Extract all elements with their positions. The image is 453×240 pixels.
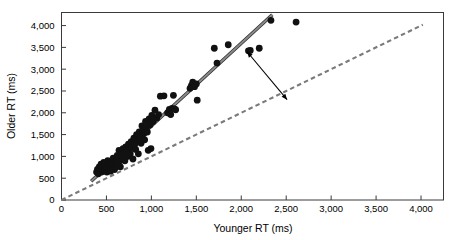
data-point xyxy=(130,156,137,163)
data-point xyxy=(155,111,162,118)
data-point xyxy=(193,81,200,88)
x-tick-label: 500 xyxy=(99,203,115,214)
data-point xyxy=(161,92,168,99)
y-tick-label: 3,000 xyxy=(31,64,55,75)
x-tick-label: 1,000 xyxy=(139,203,163,214)
data-point xyxy=(117,163,124,170)
scatter-plot-canvas: 05001,0001,5002,0002,5003,0003,5004,000 … xyxy=(0,0,453,240)
y-tick-label: 1,000 xyxy=(31,151,55,162)
x-tick-label: 0 xyxy=(59,203,64,214)
x-tick-label: 2,000 xyxy=(229,203,253,214)
y-tick-label: 500 xyxy=(39,173,55,184)
y-tick-label: 2,500 xyxy=(31,85,55,96)
data-point xyxy=(172,106,179,113)
x-tick-label: 3,000 xyxy=(319,203,343,214)
x-tick-label: 1,500 xyxy=(184,203,208,214)
y-tick-label: 2,000 xyxy=(31,107,55,118)
x-axis-tick-labels: 05001,0001,5002,0002,5003,0003,5004,000 xyxy=(59,203,433,214)
data-point xyxy=(141,136,148,143)
data-point xyxy=(170,92,177,99)
data-point xyxy=(214,60,221,67)
brinley-plot-figure: 05001,0001,5002,0002,5003,0003,5004,000 … xyxy=(0,0,453,240)
y-tick-label: 4,000 xyxy=(31,20,55,31)
x-tick-label: 2,500 xyxy=(274,203,298,214)
y-tick-label: 1,500 xyxy=(31,129,55,140)
x-tick-label: 3,500 xyxy=(364,203,388,214)
y-tick-label: 0 xyxy=(49,194,54,205)
data-point xyxy=(194,97,201,104)
data-point xyxy=(268,17,275,24)
x-tick-label: 4,000 xyxy=(409,203,433,214)
data-point xyxy=(225,41,232,48)
data-point xyxy=(211,45,218,52)
data-point xyxy=(144,129,151,136)
y-tick-label: 3,500 xyxy=(31,42,55,53)
y-axis-tick-labels: 05001,0001,5002,0002,5003,0003,5004,000 xyxy=(31,20,55,205)
y-axis-title: Older RT (ms) xyxy=(5,73,17,139)
data-point xyxy=(135,150,142,157)
data-point xyxy=(256,45,263,52)
data-point xyxy=(148,145,155,152)
data-point xyxy=(167,111,174,118)
data-point xyxy=(293,19,300,26)
x-axis-title: Younger RT (ms) xyxy=(213,222,292,234)
